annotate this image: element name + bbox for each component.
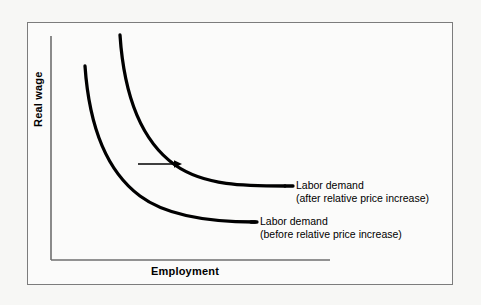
y-axis-title: Real wage <box>32 111 44 127</box>
plot-area <box>0 0 481 305</box>
labor-demand-before-label: Labor demand (before relative price incr… <box>260 215 402 240</box>
labor-demand-before-label-line2: (before relative price increase) <box>260 228 402 241</box>
labor-demand-before-label-line1: Labor demand <box>260 215 328 227</box>
figure-container: Real wage Employment Labor demand (after… <box>0 0 481 305</box>
labor-demand-before-curve <box>85 66 255 222</box>
labor-demand-after-label: Labor demand (after relative price incre… <box>296 179 429 204</box>
x-axis-title: Employment <box>151 265 219 277</box>
labor-demand-after-label-line1: Labor demand <box>296 179 364 191</box>
labor-demand-after-label-line2: (after relative price increase) <box>296 192 429 205</box>
shift-arrow-icon <box>138 160 182 168</box>
